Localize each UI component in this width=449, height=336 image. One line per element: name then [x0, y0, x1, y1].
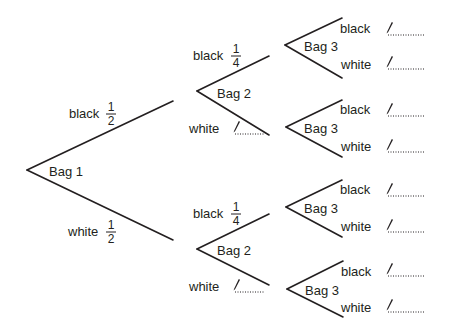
bag3-3-black-answer-field[interactable]: [387, 183, 424, 196]
bag2-upper-white-label: white: [188, 121, 219, 136]
bag3-3-white-answer-field[interactable]: [387, 219, 424, 232]
bag1-black-prob-numerator: 1: [108, 100, 115, 114]
bag3-3-white-label: white: [340, 219, 371, 234]
bag3-2-white-answer-field[interactable]: [387, 139, 424, 152]
bag1-black-prob-denominator: 2: [108, 114, 115, 128]
bag2-lower-node: Bag 2 black 1 4 white: [188, 200, 269, 294]
bag1-node: Bag 1 black 1 2 white 1 2: [27, 100, 173, 246]
bag3-1-label: Bag 3: [304, 39, 338, 54]
bag3-2-white-label: white: [340, 139, 371, 154]
bag3-4-white-answer-field[interactable]: [387, 299, 424, 312]
bag3-3-black-label: black: [340, 182, 371, 197]
bag3-node-1: Bag 3 black white: [285, 18, 424, 78]
bag2-lower-label: Bag 2: [217, 243, 251, 258]
bag2-lower-white-label: white: [188, 279, 219, 294]
bag3-3-label: Bag 3: [304, 201, 338, 216]
bag2-lower-black-prob-denominator: 4: [233, 214, 240, 228]
bag1-white-prob-denominator: 2: [108, 232, 115, 246]
bag1-white-branch: [27, 170, 173, 240]
bag2-lower-black-label: black: [193, 206, 224, 221]
bag3-1-white-answer-field[interactable]: [387, 56, 424, 69]
bag3-1-black-answer-field[interactable]: [387, 22, 424, 35]
bag2-lower-black-prob-numerator: 1: [233, 200, 240, 214]
bag1-label: Bag 1: [49, 164, 83, 179]
pencil-icon: [387, 183, 393, 195]
bag3-1-white-label: white: [340, 57, 371, 72]
bag1-white-prob-numerator: 1: [108, 218, 115, 232]
pencil-icon: [387, 56, 393, 68]
pencil-icon: [387, 299, 393, 311]
bag2-upper-node: Bag 2 black 1 4 white: [188, 42, 269, 136]
bag2-upper-black-label: black: [193, 48, 224, 63]
bag3-4-black-label: black: [341, 264, 372, 279]
pencil-icon: [387, 219, 393, 231]
bag2-upper-black-prob-numerator: 1: [233, 42, 240, 56]
bag3-4-black-answer-field[interactable]: [387, 263, 424, 276]
pencil-icon: [387, 103, 393, 115]
bag2-upper-black-prob-denominator: 4: [233, 56, 240, 70]
pencil-icon: [234, 121, 240, 133]
pencil-icon: [387, 139, 393, 151]
pencil-icon: [234, 279, 240, 291]
probability-tree-diagram: Bag 1 black 1 2 white 1 2 Bag 2 black 1 …: [0, 0, 449, 336]
bag3-node-3: Bag 3 black white: [286, 180, 424, 237]
pencil-icon: [387, 263, 393, 275]
bag3-4-label: Bag 3: [305, 283, 339, 298]
bag3-1-black-label: black: [340, 21, 371, 36]
bag1-black-label: black: [69, 106, 100, 121]
bag3-2-black-answer-field[interactable]: [387, 103, 424, 116]
bag3-node-4: Bag 3 black white: [287, 261, 424, 317]
pencil-icon: [387, 22, 393, 34]
bag1-white-label: white: [67, 224, 98, 239]
bag3-node-2: Bag 3 black white: [286, 100, 424, 157]
bag3-2-label: Bag 3: [304, 121, 338, 136]
bag1-black-branch: [27, 101, 173, 170]
bag3-4-white-label: white: [340, 300, 371, 315]
bag2-upper-label: Bag 2: [217, 86, 251, 101]
bag3-2-black-label: black: [340, 102, 371, 117]
